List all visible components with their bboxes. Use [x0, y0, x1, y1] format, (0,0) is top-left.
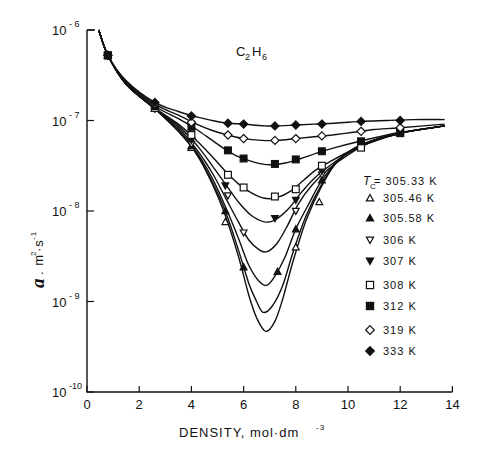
x-tick-label: 0 [83, 397, 90, 412]
legend-item-label: 312 K [383, 300, 417, 312]
y-axis-units2: ·s [31, 239, 46, 252]
y-axis-units: . m [31, 254, 46, 275]
diamond-marker-icon [240, 120, 248, 128]
diamond-marker-icon [396, 116, 404, 124]
y-tick-label: 10 [52, 114, 66, 129]
y-tick-label: 10 [52, 204, 66, 219]
y-axis-units2-exp: -1 [29, 231, 38, 240]
series-curve-305-46-K [99, 30, 445, 313]
square-marker-icon [292, 156, 299, 163]
diamond-marker-icon [366, 347, 375, 356]
series-curve-312-K [99, 30, 445, 165]
axis-lines [87, 30, 452, 392]
legend-item-label: 307 K [383, 255, 417, 267]
annotation-sub2: 6 [262, 52, 267, 62]
series-curve-319-K [99, 30, 445, 141]
legend-item-label: 308 K [383, 279, 417, 291]
diamond-marker-icon [224, 119, 232, 127]
diamond-marker-icon [271, 122, 279, 130]
x-tick-label: 8 [292, 397, 299, 412]
y-tick-label: 10 [52, 385, 66, 400]
diamond-marker-icon [240, 135, 248, 143]
legend-item-label: 305.46 K [383, 192, 435, 204]
square-marker-icon [292, 186, 299, 193]
diamond-marker-icon [292, 135, 300, 143]
triangle-marker-icon [366, 214, 373, 220]
diffusivity-vs-density-chart: 10- 610- 710- 810- 910-1002468101214 C 2… [0, 0, 477, 456]
square-marker-icon [319, 148, 326, 155]
square-marker-icon [225, 147, 232, 154]
diamond-marker-icon [224, 131, 232, 139]
annotation-h: H [252, 44, 261, 59]
square-marker-icon [272, 193, 279, 200]
x-tick-label: 10 [341, 397, 355, 412]
annotation-c: C [236, 44, 245, 59]
diamond-marker-icon [318, 120, 326, 128]
y-tick-label-exp: - 8 [69, 200, 80, 210]
square-marker-icon [319, 162, 326, 169]
y-tick-label-exp: - 6 [69, 19, 80, 29]
x-tick-label: 14 [445, 397, 459, 412]
diamond-marker-icon [187, 112, 195, 120]
legend-item-label: 306 K [383, 234, 417, 246]
legend-item-label: 305.58 K [383, 212, 435, 224]
series-curve-333-K [99, 30, 445, 126]
x-axis-label: DENSITY, mol·dm [179, 425, 299, 440]
y-axis-symbol: a [27, 278, 48, 288]
compound-annotation: C 2 H 6 [236, 44, 267, 62]
x-tick-label: 6 [240, 397, 247, 412]
series-curve-308-K [99, 30, 445, 199]
square-marker-icon [188, 132, 195, 139]
diamond-marker-icon [292, 121, 300, 129]
legend-title-value: = 305.33 K [374, 175, 438, 187]
y-tick-label-exp: - 7 [69, 110, 80, 120]
diamond-marker-icon [271, 136, 279, 144]
legend-item-label: 319 K [383, 324, 417, 336]
annotation-sub1: 2 [245, 52, 250, 62]
triangle-down-marker-icon [366, 258, 373, 264]
square-marker-icon [240, 155, 247, 162]
triangle-marker-icon [316, 199, 323, 205]
y-tick-label-exp: -10 [69, 381, 82, 391]
triangle-marker-icon [292, 226, 299, 232]
series-curve-305-58-K [99, 30, 445, 285]
triangle-marker-icon [274, 268, 281, 274]
y-tick-label-exp: - 9 [69, 291, 80, 301]
x-tick-label: 2 [136, 397, 143, 412]
square-marker-icon [225, 171, 232, 178]
square-marker-icon [366, 281, 373, 288]
diamond-marker-icon [357, 127, 365, 135]
x-tick-label: 12 [393, 397, 407, 412]
legend: T C = 305.33 K 305.46 K305.58 K306 K307 … [363, 174, 438, 357]
x-tick-label: 4 [188, 397, 195, 412]
triangle-marker-icon [366, 194, 373, 200]
square-marker-icon [358, 138, 365, 145]
square-marker-icon [272, 161, 279, 168]
diamond-marker-icon [357, 117, 365, 125]
diamond-marker-icon [366, 326, 375, 335]
square-marker-icon [240, 184, 247, 191]
triangle-down-marker-icon [366, 237, 373, 243]
x-axis-title: DENSITY, mol·dm -3 [179, 423, 325, 440]
diamond-marker-icon [318, 132, 326, 140]
square-marker-icon [366, 302, 373, 309]
legend-item-label: 333 K [383, 345, 417, 357]
x-axis-label-exp: -3 [316, 423, 325, 432]
y-tick-label: 10 [52, 23, 66, 38]
y-axis-title: a . m 2 ·s -1 [27, 231, 48, 288]
y-tick-label: 10 [52, 295, 66, 310]
